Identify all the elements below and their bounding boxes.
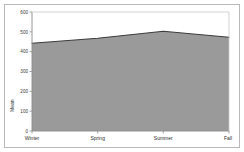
x-tick-label-fall: Fall (224, 135, 232, 141)
y-axis-title: Mean (9, 99, 15, 112)
plot-wrapper: 600 500 400 300 200 100 0 Winter Spring … (0, 0, 244, 152)
y-tick-label-100: 100 (20, 109, 28, 114)
chart-figure: 600 500 400 300 200 100 0 Winter Spring … (0, 0, 244, 152)
area-fill (32, 31, 229, 131)
y-tick-label-200: 200 (20, 89, 28, 94)
y-tick-label-400: 400 (20, 49, 28, 54)
y-tick-label-300: 300 (20, 69, 28, 74)
y-tick-label-500: 500 (20, 30, 28, 35)
area-chart: 600 500 400 300 200 100 0 Winter Spring … (0, 0, 244, 152)
x-tick-label-summer: Summer (154, 135, 173, 141)
x-tick-label-spring: Spring (90, 135, 105, 141)
y-tick-label-600: 600 (20, 10, 28, 15)
y-tick-label-0: 0 (25, 129, 28, 134)
x-tick-label-winter: Winter (25, 135, 40, 141)
